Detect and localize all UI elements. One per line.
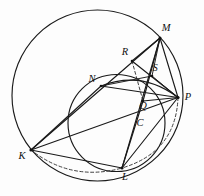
point-label-m: M: [161, 22, 172, 33]
inner-circle: [68, 75, 165, 172]
arc-k-l-dashed: [31, 150, 122, 172]
vertex-dot-k: [29, 148, 32, 151]
point-label-r: R: [121, 46, 129, 57]
segment-k-n: [31, 86, 101, 150]
point-label-c: C: [136, 117, 144, 128]
point-label-l: L: [121, 171, 128, 182]
point-label-q: Q: [139, 100, 147, 111]
point-label-p: P: [184, 91, 192, 102]
point-label-n: N: [87, 73, 96, 84]
vertex-dot-n: [100, 85, 103, 88]
vertex-dot-s: [151, 75, 154, 78]
segment-m-p: [160, 38, 178, 98]
geometry-figure: M R S N P Q C K L: [0, 0, 204, 196]
point-label-s: S: [152, 62, 158, 73]
vertex-dot-l: [120, 166, 123, 169]
vertex-dot-m: [159, 37, 162, 40]
point-label-k: K: [17, 150, 26, 161]
vertex-dot-p: [176, 96, 179, 99]
vertex-dot-r: [131, 60, 134, 63]
segment-k-p: [31, 98, 178, 151]
geometry-canvas: M R S N P Q C K L: [0, 0, 204, 196]
